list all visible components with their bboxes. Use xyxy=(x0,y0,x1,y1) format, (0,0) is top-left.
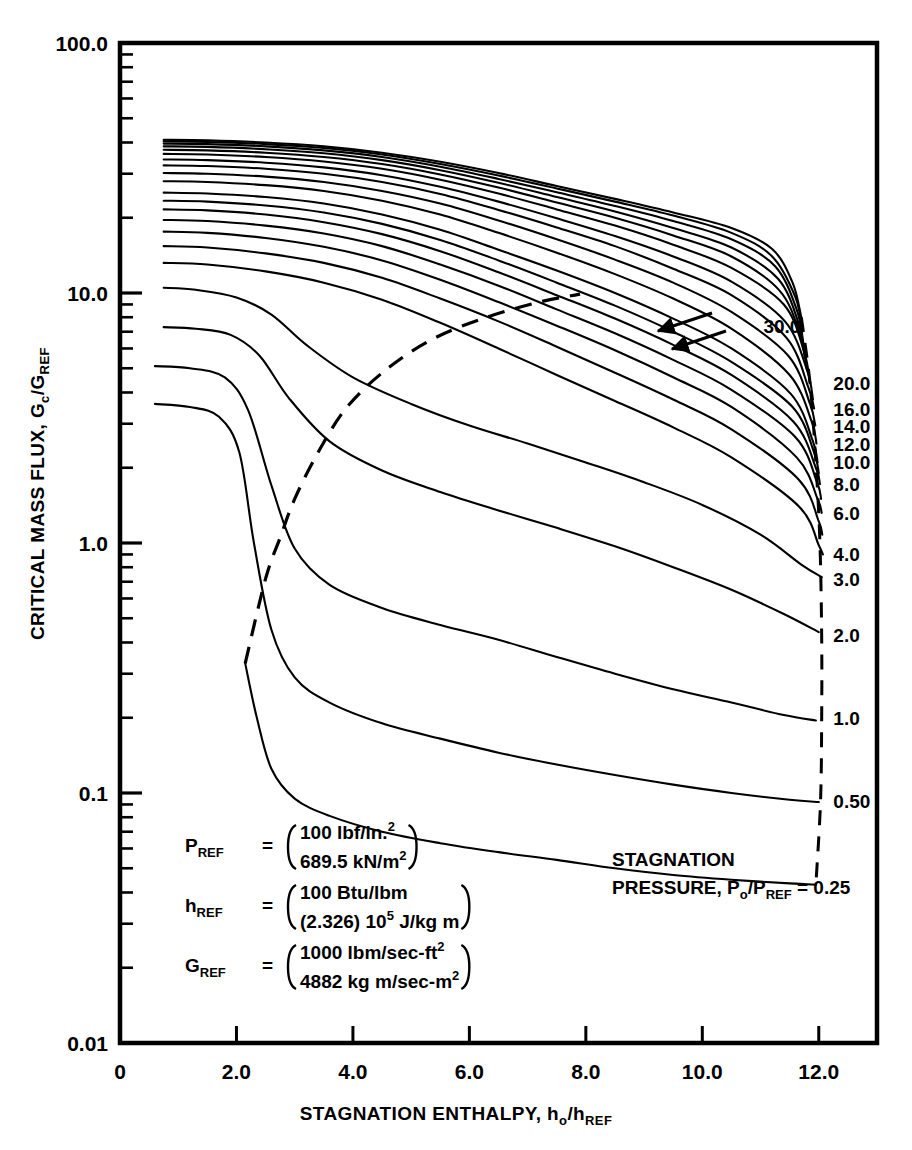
legend-value-bottom: 689.5 kN/m2 xyxy=(300,848,407,872)
curve-label-3-0: 3.0 xyxy=(833,569,859,590)
curve-label-2-0: 2.0 xyxy=(833,625,859,646)
chart-svg: 0.010.11.010.0100.0 02.04.06.08.010.012.… xyxy=(0,0,912,1150)
x-tick-label: 4.0 xyxy=(338,1060,367,1083)
legend-value-bottom: (2.326) 105 J/kg m xyxy=(300,908,459,932)
y-tick-label: 100.0 xyxy=(55,32,108,55)
x-tick-label: 0 xyxy=(114,1060,126,1083)
curve-label-10-0: 10.0 xyxy=(833,452,870,473)
y-tick-label: 0.01 xyxy=(67,1032,108,1055)
x-tick-label: 8.0 xyxy=(571,1060,600,1083)
curve-label-6-0: 6.0 xyxy=(833,503,859,524)
legend-equals: = xyxy=(262,895,273,916)
x-tick-label: 2.0 xyxy=(222,1060,251,1083)
curve-label-8-0: 8.0 xyxy=(833,474,859,495)
curve-label-20-0: 20.0 xyxy=(833,373,870,394)
x-tick-label: 6.0 xyxy=(455,1060,484,1083)
y-tick-label: 0.1 xyxy=(79,782,109,805)
legend-value-bottom: 4882 kg m/sec-m2 xyxy=(300,968,459,992)
legend-value-top: 1000 lbm/sec-ft2 xyxy=(300,939,445,963)
curve-label-0-50: 0.50 xyxy=(833,791,870,812)
curve-label-12-0: 12.0 xyxy=(833,434,870,455)
x-tick-label: 12.0 xyxy=(798,1060,839,1083)
y-tick-label: 1.0 xyxy=(79,532,108,555)
curve-label-1-0: 1.0 xyxy=(833,708,859,729)
curve-label-4-0: 4.0 xyxy=(833,544,859,565)
legend-value-top: 100 lbf/in.2 xyxy=(300,819,395,843)
legend-equals: = xyxy=(262,835,273,856)
critical-mass-flux-chart: 0.010.11.010.0100.0 02.04.06.08.010.012.… xyxy=(0,0,912,1150)
curve-label-30-0: 30.0 xyxy=(763,316,800,337)
legend-equals: = xyxy=(262,955,273,976)
annotation-line-1: STAGNATION xyxy=(612,849,735,870)
legend-value-top: 100 Btu/lbm xyxy=(300,882,408,903)
y-tick-label: 10.0 xyxy=(67,282,108,305)
x-tick-label: 10.0 xyxy=(682,1060,723,1083)
